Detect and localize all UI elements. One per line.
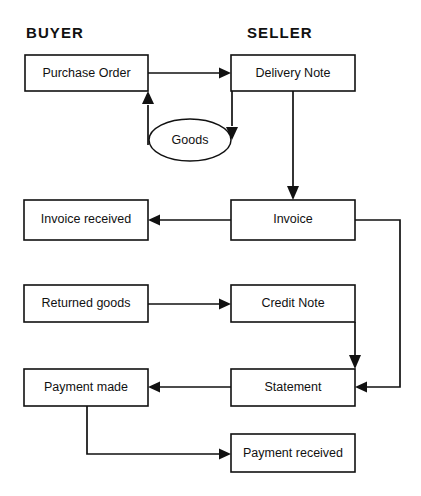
arrowhead-icon xyxy=(219,299,231,310)
node-purchase-order-label: Purchase Order xyxy=(42,66,130,80)
arrowhead-icon xyxy=(148,215,160,226)
arrowhead-icon xyxy=(349,355,361,369)
arrowhead-icon xyxy=(148,382,160,393)
node-returned-goods[interactable]: Returned goods xyxy=(24,285,148,322)
edge-invoice-to-invoice-received xyxy=(148,215,231,226)
node-invoice[interactable]: Invoice xyxy=(231,200,355,240)
arrowhead-icon xyxy=(219,68,231,79)
node-delivery-note-label: Delivery Note xyxy=(255,66,330,80)
node-invoice-received[interactable]: Invoice received xyxy=(24,200,148,240)
flowchart-diagram: BUYER SELLER xyxy=(0,0,421,496)
node-credit-note[interactable]: Credit Note xyxy=(231,285,355,322)
node-payment-received[interactable]: Payment received xyxy=(231,434,355,472)
node-purchase-order[interactable]: Purchase Order xyxy=(25,55,148,91)
flowchart-canvas: BUYER SELLER xyxy=(0,0,421,496)
node-goods[interactable]: Goods xyxy=(149,119,231,161)
column-header-buyer: BUYER xyxy=(26,24,84,41)
node-payment-made[interactable]: Payment made xyxy=(24,369,148,406)
node-statement-label: Statement xyxy=(265,380,323,394)
edge-returned-goods-to-credit-note xyxy=(148,299,231,310)
node-returned-goods-label: Returned goods xyxy=(42,296,131,310)
edge-purchase-order-to-delivery-note xyxy=(148,68,231,79)
node-statement[interactable]: Statement xyxy=(231,369,355,406)
node-goods-label: Goods xyxy=(172,133,209,147)
node-invoice-label: Invoice xyxy=(273,212,313,226)
column-header-seller: SELLER xyxy=(247,24,313,41)
edge-payment-made-to-payment-received xyxy=(87,406,231,460)
edge-statement-to-payment-made xyxy=(148,382,231,393)
edge-invoice-to-statement xyxy=(355,220,400,393)
node-payment-made-label: Payment made xyxy=(44,380,128,394)
arrowhead-icon xyxy=(355,382,367,393)
edge-credit-note-to-statement xyxy=(349,322,361,369)
arrowhead-icon xyxy=(142,91,154,104)
node-invoice-received-label: Invoice received xyxy=(41,212,131,226)
node-credit-note-label: Credit Note xyxy=(261,296,324,310)
edge-delivery-note-to-invoice xyxy=(287,91,299,200)
node-delivery-note[interactable]: Delivery Note xyxy=(231,55,355,91)
arrowhead-icon xyxy=(219,449,231,460)
arrowhead-icon xyxy=(287,186,299,200)
node-payment-received-label: Payment received xyxy=(243,446,343,460)
